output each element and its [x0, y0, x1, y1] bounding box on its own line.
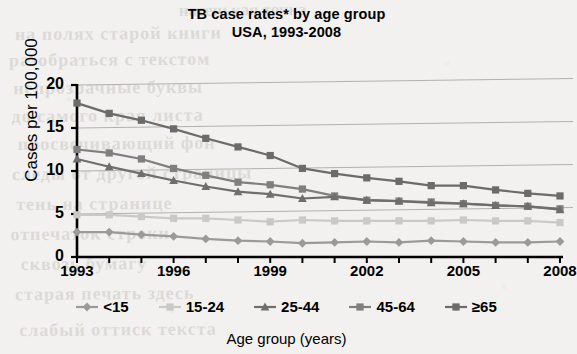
series-line [77, 150, 560, 209]
data-point [428, 182, 435, 189]
data-point [330, 238, 339, 247]
data-point [331, 170, 338, 177]
series-45-64 [73, 146, 563, 213]
data-point [170, 165, 177, 172]
data-point [169, 232, 178, 241]
data-point [73, 99, 80, 106]
data-point [452, 303, 459, 310]
data-point [299, 165, 306, 172]
series-65 [73, 99, 563, 199]
data-point [460, 216, 467, 223]
data-point [459, 237, 468, 246]
legend-marker-diamond-icon [76, 300, 98, 314]
legend-label: 45-64 [376, 298, 414, 315]
data-point [556, 237, 565, 246]
legend-label: ≥65 [472, 298, 497, 315]
data-point [234, 216, 241, 223]
data-point [106, 149, 113, 156]
data-point [138, 155, 145, 162]
data-point [201, 235, 210, 244]
data-point [395, 217, 402, 224]
data-point [524, 190, 531, 197]
data-point [73, 155, 82, 163]
data-point [267, 152, 274, 159]
data-point [298, 239, 307, 248]
data-point [491, 238, 500, 247]
data-point [266, 237, 275, 246]
series-line [77, 232, 560, 243]
data-point [105, 228, 114, 237]
data-point [362, 237, 371, 246]
legend-item-15[interactable]: <15 [76, 298, 128, 315]
data-point [234, 236, 243, 245]
data-point [299, 185, 306, 192]
data-point [73, 146, 80, 153]
legend-item-25-44[interactable]: 25-44 [254, 298, 319, 315]
series-line [77, 215, 560, 223]
data-point [138, 117, 145, 124]
data-point [166, 303, 173, 310]
gridline [77, 165, 573, 172]
chart-legend: <1515-2425-4445-64≥65 [0, 298, 573, 315]
data-point [138, 213, 145, 220]
data-point [556, 192, 563, 199]
data-point [363, 174, 370, 181]
data-point [202, 215, 209, 222]
data-point [523, 238, 532, 247]
legend-label: <15 [103, 298, 128, 315]
data-point [524, 217, 531, 224]
data-point [234, 143, 241, 150]
data-point [170, 125, 177, 132]
series-line [77, 103, 560, 196]
data-point [363, 217, 370, 224]
series-line [77, 159, 560, 210]
data-point [267, 218, 274, 225]
legend-item-15-24[interactable]: 15-24 [159, 298, 224, 315]
data-point [137, 230, 146, 239]
data-point [428, 217, 435, 224]
series-15 [73, 228, 565, 248]
legend-marker-square-icon [159, 300, 181, 314]
data-point [357, 303, 364, 310]
data-point [73, 211, 80, 218]
data-point [106, 211, 113, 218]
data-point [234, 179, 241, 186]
data-point [492, 217, 499, 224]
data-point [267, 181, 274, 188]
data-point [460, 182, 467, 189]
data-point [492, 186, 499, 193]
data-point [299, 216, 306, 223]
legend-marker-triangle-icon [254, 300, 276, 314]
legend-marker-square-icon [445, 300, 467, 314]
legend-item-45-64[interactable]: 45-64 [349, 298, 414, 315]
data-point [202, 172, 209, 179]
data-point [73, 228, 82, 237]
data-point [427, 236, 436, 245]
data-point [106, 110, 113, 117]
data-point [395, 178, 402, 185]
data-point [170, 215, 177, 222]
data-point [83, 302, 92, 311]
legend-label: 15-24 [186, 298, 224, 315]
series-25-44 [73, 155, 565, 214]
legend-label: 25-44 [281, 298, 319, 315]
legend-item-65[interactable]: ≥65 [445, 298, 497, 315]
data-point [556, 219, 563, 226]
data-point [331, 217, 338, 224]
data-point [395, 238, 404, 247]
gridline [77, 79, 573, 86]
legend-marker-square-icon [349, 300, 371, 314]
data-point [202, 135, 209, 142]
